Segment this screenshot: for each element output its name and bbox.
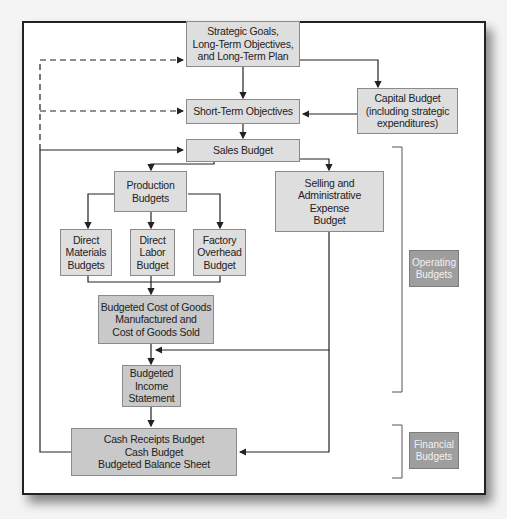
node-direct-labor-budget: Direct Labor Budget — [130, 229, 175, 276]
node-cogs-budget: Budgeted Cost of Goods Manufactured and … — [98, 295, 214, 344]
group-label-operating-budgets: Operating Budgets — [409, 250, 459, 287]
node-cash-budgets: Cash Receipts Budget Cash Budget Budgete… — [71, 428, 237, 476]
node-strategic-goals: Strategic Goals, Long-Term Objectives, a… — [186, 21, 300, 67]
node-short-term-objectives: Short-Term Objectives — [186, 99, 300, 124]
node-production-budgets: Production Budgets — [114, 171, 187, 212]
node-factory-overhead-budget: Factory Overhead Budget — [193, 229, 246, 276]
group-label-financial-budgets: Financial Budgets — [409, 432, 459, 469]
node-selling-admin-budget: Selling and Administrative Expense Budge… — [275, 171, 384, 232]
node-direct-materials-budgets: Direct Materials Budgets — [60, 229, 112, 276]
node-budgeted-income-statement: Budgeted Income Statement — [122, 365, 181, 407]
node-sales-budget: Sales Budget — [186, 139, 300, 162]
node-capital-budget: Capital Budget (including strategic expe… — [357, 88, 458, 134]
